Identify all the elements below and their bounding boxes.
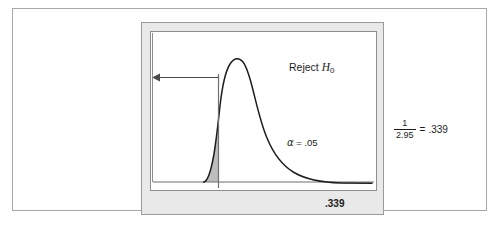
reject-arrow-head (152, 74, 160, 82)
null-hypothesis-symbol: H (322, 61, 330, 73)
critical-value-expression: 1 2.95 = .339 (394, 119, 448, 140)
critical-value-result: .339 (428, 125, 447, 135)
distribution-curve-chart (151, 32, 376, 190)
alpha-symbol: α (287, 137, 294, 148)
alpha-value: = .05 (294, 137, 318, 148)
figure-panel: Reject H0 α = .05 1 2.95 = .339 .339 (141, 22, 384, 215)
fraction-numerator: 1 (400, 119, 409, 129)
rejection-region-shading (204, 118, 219, 182)
fraction-denominator: 2.95 (394, 130, 416, 140)
density-curve (204, 59, 373, 184)
reject-word: Reject (289, 61, 322, 73)
equals-sign: = (420, 125, 426, 135)
fraction: 1 2.95 (394, 119, 416, 140)
x-axis-tick-label: .339 (325, 199, 344, 209)
page-frame: Reject H0 α = .05 1 2.95 = .339 .339 (12, 8, 487, 211)
reject-region-label: Reject H0 (289, 62, 334, 75)
significance-level-label: α = .05 (287, 138, 318, 148)
null-hypothesis-subscript: 0 (330, 66, 334, 75)
plot-area (150, 31, 377, 191)
